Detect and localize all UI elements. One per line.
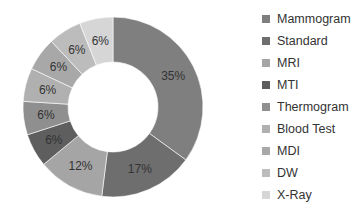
legend-label: Blood Test xyxy=(277,122,335,136)
legend-item-mri: MRI xyxy=(262,52,351,74)
legend-swatch xyxy=(262,169,270,177)
legend-label: MRI xyxy=(277,56,300,70)
slice-value-label: 6% xyxy=(39,83,57,97)
legend-swatch xyxy=(262,37,270,45)
legend-swatch xyxy=(262,103,270,111)
slice-value-label: 12% xyxy=(68,159,92,173)
legend-item-dw: DW xyxy=(262,162,351,184)
donut-slices xyxy=(23,17,203,197)
legend-label: Standard xyxy=(277,34,328,48)
legend-label: DW xyxy=(277,166,298,180)
slice-value-label: 6% xyxy=(37,108,55,122)
legend-swatch xyxy=(262,191,270,199)
legend-swatch xyxy=(262,147,270,155)
legend-label: MTI xyxy=(277,78,299,92)
legend-item-mti: MTI xyxy=(262,74,351,96)
slice-value-label: 35% xyxy=(161,69,185,83)
legend-item-x-ray: X-Ray xyxy=(262,184,351,206)
legend-swatch xyxy=(262,59,270,67)
legend-item-thermogram: Thermogram xyxy=(262,96,351,118)
donut-chart: 35%17%12%6%6%6%6%6%6% xyxy=(0,0,250,213)
legend-item-mdi: MDI xyxy=(262,140,351,162)
slice-value-label: 6% xyxy=(45,133,63,147)
slice-value-label: 6% xyxy=(50,60,68,74)
slice-value-label: 6% xyxy=(92,34,110,48)
legend-label: MDI xyxy=(277,144,300,158)
legend-item-standard: Standard xyxy=(262,30,351,52)
legend-label: X-Ray xyxy=(277,188,312,202)
legend-item-blood-test: Blood Test xyxy=(262,118,351,140)
legend-swatch xyxy=(262,81,270,89)
slice-value-label: 6% xyxy=(68,43,86,57)
legend-item-mammogram: Mammogram xyxy=(262,8,351,30)
legend-label: Mammogram xyxy=(277,12,351,26)
slice-value-label: 17% xyxy=(128,162,152,176)
chart-legend: Mammogram Standard MRI MTI Thermogram Bl… xyxy=(262,8,351,206)
slice-mammogram xyxy=(113,17,203,160)
legend-swatch xyxy=(262,15,270,23)
legend-swatch xyxy=(262,125,270,133)
legend-label: Thermogram xyxy=(277,100,349,114)
